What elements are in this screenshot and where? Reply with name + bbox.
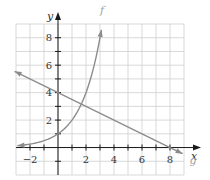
curve-f-label: f — [99, 4, 106, 17]
y-tick-label: 2 — [46, 115, 52, 126]
x-tick-label: 8 — [167, 154, 173, 165]
x-tick-label: 6 — [139, 154, 145, 165]
x-tick-label: 2 — [83, 154, 89, 165]
x-tick-label: 4 — [111, 154, 117, 165]
series: fg — [15, 4, 197, 167]
series-f: f — [17, 4, 106, 147]
x-tick-label: −2 — [23, 154, 38, 165]
y-tick-label: 6 — [46, 60, 52, 71]
chart: x y −224682468 fg — [0, 0, 210, 180]
y-axis-label: y — [46, 10, 54, 23]
curve-g-arrow-icon — [175, 148, 182, 153]
grid — [16, 24, 184, 175]
curve-g-label: g — [190, 154, 197, 167]
y-axis-arrow-icon — [55, 12, 61, 20]
tick-labels: −224682468 — [23, 32, 174, 164]
y-tick-label: 8 — [46, 32, 52, 43]
